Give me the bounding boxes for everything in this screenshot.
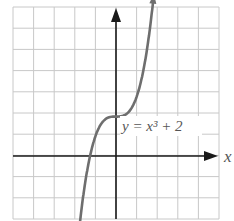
curve-top-arrow-icon [149, 0, 156, 4]
equation-label: y = x³ + 2 [120, 118, 183, 134]
y-axis-arrow-icon [111, 8, 121, 22]
x-axis-arrow-icon [204, 151, 218, 161]
curve-y-equals-x-cubed-plus-2 [76, 0, 153, 221]
x-axis-label: x [223, 147, 232, 166]
cubic-function-graph: y = x³ + 2 x [0, 0, 234, 221]
